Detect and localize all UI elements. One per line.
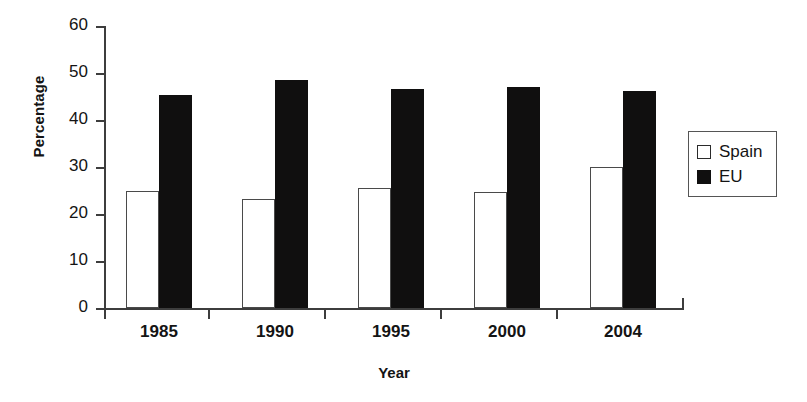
y-tick-label-50: 50	[69, 62, 88, 82]
y-tick-0: 0	[96, 308, 104, 310]
bar-spain-2004	[590, 167, 623, 309]
y-tick-60: 60	[96, 26, 104, 28]
y-tick-label-20: 20	[69, 203, 88, 223]
bar-eu-1990	[275, 80, 308, 308]
x-tick-2	[324, 310, 326, 319]
x-axis-title: Year	[104, 364, 684, 381]
y-tick-label-40: 40	[69, 109, 88, 129]
legend-label-spain: Spain	[719, 142, 762, 162]
x-tick-4	[556, 310, 558, 319]
bar-eu-1985	[159, 95, 192, 308]
x-tick-1	[208, 310, 210, 319]
open-square-swatch-icon	[697, 145, 711, 159]
bar-chart: Percentage 0 10 20 30 40 50 60	[0, 0, 807, 402]
x-tick-label-2004: 2004	[604, 322, 642, 342]
y-tick-label-0: 0	[79, 297, 88, 317]
y-tick-label-60: 60	[69, 15, 88, 35]
legend-item-spain: Spain	[697, 139, 762, 164]
legend-label-eu: EU	[719, 167, 743, 187]
bar-spain-1995	[358, 188, 391, 308]
y-tick-label-30: 30	[69, 156, 88, 176]
chart-legend: Spain EU	[688, 131, 777, 197]
y-tick-50: 50	[96, 73, 104, 75]
bar-eu-1995	[391, 89, 424, 309]
x-tick-start	[104, 310, 106, 319]
x-tick-label-1985: 1985	[140, 322, 178, 342]
y-tick-20: 20	[96, 214, 104, 216]
plot-area: 0 10 20 30 40 50 60	[104, 26, 684, 310]
bar-spain-2000	[474, 192, 507, 308]
y-tick-30: 30	[96, 167, 104, 169]
bar-eu-2004	[623, 91, 656, 308]
x-tick-label-1990: 1990	[256, 322, 294, 342]
y-axis-title: Percentage	[30, 37, 47, 197]
y-tick-40: 40	[96, 120, 104, 122]
filled-square-swatch-icon	[697, 170, 711, 184]
bar-eu-2000	[507, 87, 540, 308]
bar-spain-1990	[242, 199, 275, 309]
x-tick-label-1995: 1995	[372, 322, 410, 342]
legend-item-eu: EU	[697, 164, 762, 189]
x-tick-label-2000: 2000	[488, 322, 526, 342]
y-tick-10: 10	[96, 261, 104, 263]
bar-spain-1985	[126, 191, 159, 309]
x-tick-3	[440, 310, 442, 319]
y-tick-label-10: 10	[69, 250, 88, 270]
bars-layer	[104, 26, 684, 310]
